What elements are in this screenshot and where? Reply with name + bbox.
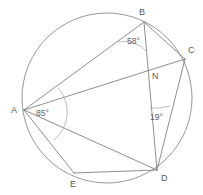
angle-arc-at-d — [150, 106, 170, 108]
chord-a-b — [24, 22, 144, 110]
angle-label-at-d: 19° — [150, 112, 163, 122]
vertex-label-e: E — [70, 179, 76, 189]
vertex-label-c: C — [188, 45, 195, 55]
circumscribed-circle — [22, 13, 192, 183]
geometry-diagram: A B C D E N 58° 85° 19° — [0, 0, 203, 195]
chord-a-d — [24, 110, 157, 170]
angle-label-at-b: 58° — [127, 36, 140, 46]
vertex-label-b: B — [139, 7, 145, 17]
chord-e-d — [74, 170, 157, 173]
chord-b-c — [144, 22, 185, 59]
vertex-label-n: N — [152, 71, 159, 81]
vertex-label-a: A — [11, 105, 17, 115]
chord-a-c — [24, 59, 185, 110]
circle-geometry-figure: A B C D E N 58° 85° 19° — [0, 0, 203, 195]
vertex-label-d: D — [161, 173, 168, 183]
angle-arc-at-a — [54, 88, 67, 140]
angle-label-at-a: 85° — [36, 108, 49, 118]
chord-b-d — [144, 22, 157, 170]
